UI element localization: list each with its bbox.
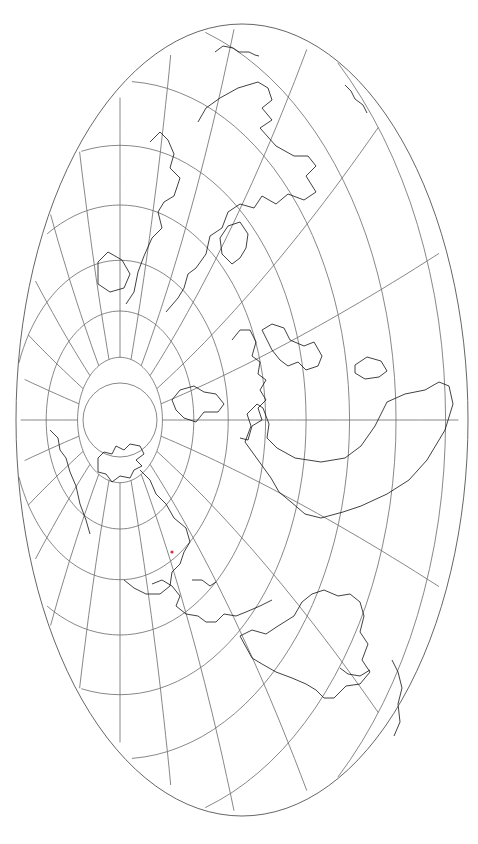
graticule-line (161, 253, 439, 403)
coast-greenland (172, 386, 224, 422)
graticule-line (150, 464, 307, 790)
coast-madagascar (355, 357, 387, 379)
coast-asia (166, 82, 316, 312)
graticule-line (36, 464, 91, 559)
coast-tierra-del-fuego (340, 668, 370, 676)
graticule-line (51, 474, 99, 625)
coast-southeast-asia (126, 132, 180, 304)
coast-europe (232, 330, 266, 440)
graticule-line (28, 335, 83, 389)
coast-alaska (50, 430, 90, 534)
graticule-line (150, 49, 307, 375)
graticule-line (28, 451, 83, 505)
graticule-line (157, 127, 378, 388)
coast-scandinavia (262, 324, 322, 370)
coast-north-america (124, 470, 190, 594)
accent-mark (170, 550, 173, 553)
graticule-line (25, 379, 79, 403)
graticule-line (25, 436, 79, 460)
world-map (0, 0, 478, 844)
coast-caribbean-islands (192, 580, 216, 586)
graticule-line (157, 451, 378, 712)
graticule-line (36, 281, 91, 376)
coast-australia-area (98, 252, 130, 292)
graticule-lines (19, 29, 458, 810)
graticule-line (80, 481, 109, 689)
pole-cap (83, 383, 157, 457)
graticule-line (51, 215, 99, 366)
coast-india (220, 222, 248, 264)
coast-antarctica-1 (215, 46, 259, 56)
